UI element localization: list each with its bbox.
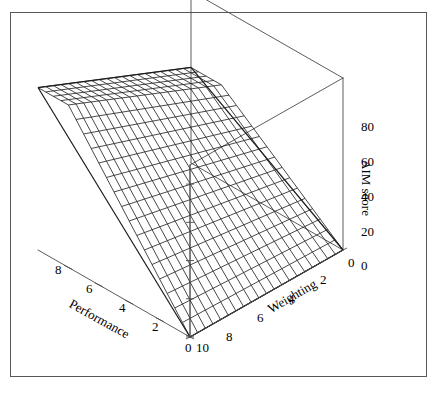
z-tick-label-0: 0 — [361, 258, 368, 274]
y-tick-label-10: 10 — [196, 340, 209, 356]
y-tick-label-6: 6 — [257, 310, 264, 326]
x-tick-label-2: 2 — [152, 319, 159, 335]
z-tick-label-20: 20 — [361, 224, 374, 240]
z-tick-label-80: 80 — [361, 119, 374, 135]
y-tick-label-2: 2 — [320, 272, 327, 288]
figure-root: 80 60 40 20 0 AIM score 8 6 4 2 0 Perfor… — [0, 0, 436, 393]
x-tick-label-0: 0 — [185, 340, 192, 356]
z-axis-title: AIM score — [358, 160, 374, 216]
y-tick-label-0: 0 — [348, 255, 355, 271]
x-tick-label-8: 8 — [55, 262, 62, 278]
x-tick-label-6: 6 — [86, 281, 93, 297]
y-tick-label-8: 8 — [226, 329, 233, 345]
x-tick-label-4: 4 — [119, 300, 126, 316]
